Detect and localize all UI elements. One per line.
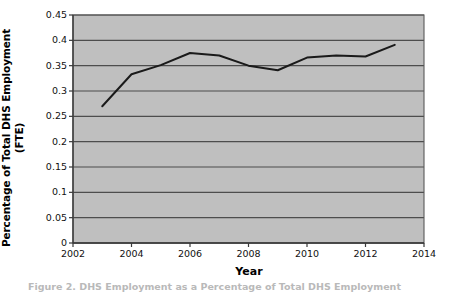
x-tick-label: 2002 (51, 248, 95, 259)
x-tick-label: 2014 (402, 248, 446, 259)
figure-caption: Figure 2. DHS Employment as a Percentage… (28, 281, 428, 292)
x-tick-label: 2008 (227, 248, 271, 259)
x-axis-title: Year (73, 265, 425, 278)
x-tick-label: 2010 (285, 248, 329, 259)
x-tick-label: 2012 (344, 248, 388, 259)
plot-background (73, 15, 424, 243)
x-tick-label: 2004 (110, 248, 154, 259)
x-tick-label: 2006 (168, 248, 212, 259)
